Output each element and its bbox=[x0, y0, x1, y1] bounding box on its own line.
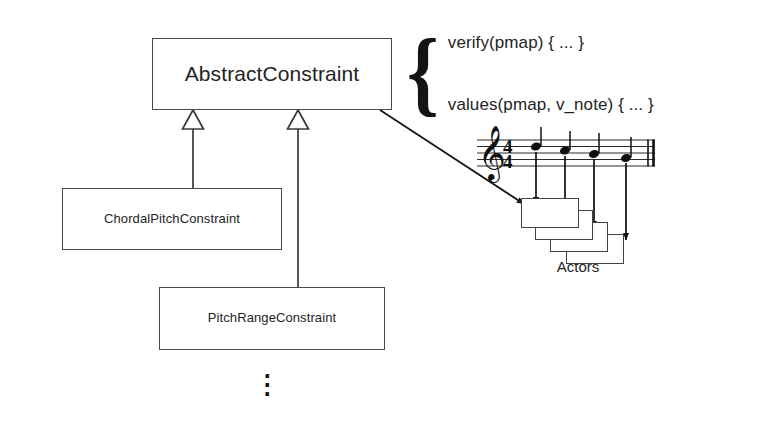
treble-clef-icon: 𝄞 bbox=[478, 125, 506, 183]
class-name-label: AbstractConstraint bbox=[185, 62, 360, 85]
generalization-triangle bbox=[288, 110, 309, 129]
svg-text:𝄞: 𝄞 bbox=[478, 125, 506, 183]
music-staff: 𝄞 4 4 bbox=[477, 125, 655, 183]
svg-text:4: 4 bbox=[503, 151, 513, 172]
class-name-label: PitchRangeConstraint bbox=[208, 311, 336, 325]
note-head bbox=[620, 137, 632, 163]
more-subclasses-ellipsis: · · · bbox=[248, 372, 288, 399]
class-name-label: ChordalPitchConstraint bbox=[104, 212, 240, 226]
method-signature-values: values(pmap, v_note) { ... } bbox=[448, 95, 654, 115]
generalization-triangle bbox=[183, 110, 204, 129]
actor-box[interactable] bbox=[521, 198, 579, 228]
method-signature-verify: verify(pmap) { ... } bbox=[448, 33, 654, 53]
uml-class-diagram: 𝄞 4 4 bbox=[0, 0, 776, 426]
method-annotation-group: { verify(pmap) { ... } values(pmap, v_no… bbox=[404, 24, 764, 124]
note-head bbox=[559, 131, 571, 156]
class-box-abstract-constraint[interactable]: AbstractConstraint bbox=[152, 38, 392, 110]
generalization-pitch-range-constraint bbox=[288, 110, 309, 287]
note-head bbox=[588, 133, 600, 159]
time-signature-4-4: 4 4 bbox=[503, 136, 513, 172]
double-barline bbox=[648, 140, 654, 167]
generalization-chordal-pitch-constraint bbox=[183, 110, 204, 188]
class-box-pitch-range-constraint[interactable]: PitchRangeConstraint bbox=[159, 287, 385, 350]
method-list: verify(pmap) { ... } values(pmap, v_note… bbox=[448, 29, 654, 119]
ellipsis-dot: · bbox=[248, 390, 288, 399]
note-head bbox=[530, 127, 542, 152]
association-abstract-constraint-to-actors bbox=[380, 110, 524, 204]
class-box-chordal-pitch-constraint[interactable]: ChordalPitchConstraint bbox=[62, 188, 282, 250]
svg-text:4: 4 bbox=[503, 136, 513, 157]
